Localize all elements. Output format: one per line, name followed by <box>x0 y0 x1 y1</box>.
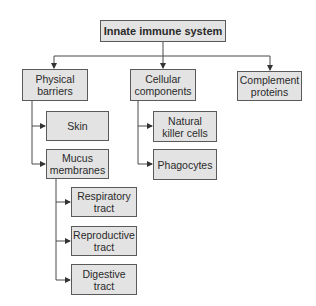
node-label: Phagocytes <box>158 159 213 171</box>
node-label: Respiratory tract <box>77 190 131 214</box>
node-label: Digestive tract <box>82 268 125 292</box>
node-natural-killer-cells: Natural killer cells <box>153 111 217 142</box>
node-physical-barriers: Physical barriers <box>22 69 88 101</box>
node-digestive-tract: Digestive tract <box>71 264 137 295</box>
node-complement-proteins: Complement proteins <box>237 71 302 101</box>
node-label: Mucus membranes <box>50 152 105 176</box>
node-label: Skin <box>67 120 87 132</box>
node-mucus-membranes: Mucus membranes <box>46 149 109 179</box>
node-respiratory-tract: Respiratory tract <box>71 187 137 217</box>
node-label: Natural killer cells <box>162 115 208 139</box>
node-cellular-components: Cellular components <box>130 69 196 101</box>
node-reproductive-tract: Reproductive tract <box>71 226 137 256</box>
node-label: Physical barriers <box>35 73 74 97</box>
node-label: Reproductive tract <box>73 229 135 253</box>
node-skin: Skin <box>46 111 109 141</box>
node-innate-immune-system: Innate immune system <box>100 20 226 42</box>
node-phagocytes: Phagocytes <box>153 149 217 180</box>
node-label: Innate immune system <box>104 25 223 37</box>
node-label: Cellular components <box>134 73 191 97</box>
innate-immune-system-diagram: Innate immune system Physical barriers C… <box>0 0 316 306</box>
node-label: Complement proteins <box>240 74 300 98</box>
